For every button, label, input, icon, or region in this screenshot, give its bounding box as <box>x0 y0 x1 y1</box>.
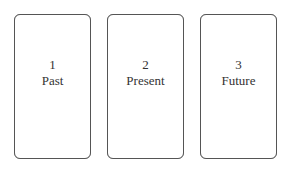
card-title: Future <box>201 73 276 89</box>
card-number: 1 <box>15 57 90 73</box>
card-number: 2 <box>108 57 183 73</box>
card-label: 3 Future <box>201 57 276 89</box>
card-number: 3 <box>201 57 276 73</box>
card-label: 1 Past <box>15 57 90 89</box>
card-title: Past <box>15 73 90 89</box>
card-present: 2 Present <box>107 14 184 159</box>
card-past: 1 Past <box>14 14 91 159</box>
card-title: Present <box>108 73 183 89</box>
card-label: 2 Present <box>108 57 183 89</box>
card-future: 3 Future <box>200 14 277 159</box>
